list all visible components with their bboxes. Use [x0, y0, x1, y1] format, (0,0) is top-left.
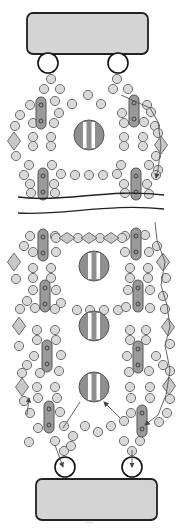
seed-bead — [108, 84, 117, 93]
two-hole-bead — [133, 341, 143, 373]
diamond-bead — [16, 378, 29, 396]
seed-bead — [120, 247, 129, 256]
seed-bead — [143, 273, 152, 282]
seed-bead — [126, 408, 135, 417]
top-clasp-bar — [27, 13, 148, 54]
diamond-bead — [8, 132, 21, 150]
seed-bead — [93, 427, 102, 436]
bead-hole — [134, 234, 138, 238]
seed-bead — [29, 351, 38, 360]
seed-bead — [32, 325, 41, 334]
seed-bead — [106, 421, 115, 430]
seed-bead — [151, 170, 160, 179]
seed-bead — [83, 90, 92, 99]
seed-bead — [28, 263, 37, 272]
seed-bead — [68, 431, 77, 440]
seed-bead — [28, 247, 37, 256]
two-hole-bead — [133, 280, 143, 312]
bead-hole — [136, 302, 140, 306]
two-hole-bead — [131, 228, 141, 260]
bead-hole — [41, 174, 45, 178]
seed-bead — [50, 304, 59, 313]
seed-bead — [46, 74, 55, 83]
seed-bead — [112, 74, 121, 83]
diamond-bead — [59, 233, 75, 244]
seed-bead — [154, 417, 163, 426]
seed-bead — [125, 382, 134, 391]
bead-hole — [134, 250, 138, 254]
seed-bead — [46, 263, 55, 272]
seed-bead — [32, 382, 41, 391]
seed-bead — [139, 117, 148, 126]
seed-bead — [15, 110, 24, 119]
bead-hole — [45, 346, 49, 350]
seed-bead — [25, 408, 34, 417]
two-hole-bead — [129, 95, 139, 127]
seed-bead — [17, 368, 26, 377]
seed-bead — [144, 160, 153, 169]
seed-bead — [15, 304, 24, 313]
focal-bead — [79, 251, 109, 281]
seed-bead — [55, 407, 64, 416]
diamond-bead — [81, 233, 97, 244]
seed-bead — [50, 436, 59, 445]
seed-bead — [28, 285, 37, 294]
two-hole-bead — [42, 340, 52, 372]
seed-bead — [11, 151, 20, 160]
seed-bead — [125, 263, 134, 272]
seed-bead — [51, 335, 60, 344]
seed-bead — [54, 108, 63, 117]
seed-bead — [24, 437, 33, 446]
focal-bead — [79, 372, 109, 402]
seed-bead — [30, 303, 39, 312]
seed-bead — [28, 132, 37, 141]
break-line — [18, 207, 164, 213]
bead-hole — [136, 286, 140, 290]
seed-bead — [56, 169, 65, 178]
seed-bead — [66, 441, 75, 450]
seed-bead — [50, 382, 59, 391]
seed-bead — [122, 351, 131, 360]
jump-ring — [38, 53, 58, 73]
seed-bead — [22, 360, 31, 369]
seed-bead — [119, 118, 128, 127]
seed-bead — [151, 351, 160, 360]
bead-hole — [39, 103, 43, 107]
seed-bead — [145, 393, 154, 402]
seed-bead — [142, 179, 151, 188]
bead-hole — [132, 117, 136, 121]
seed-bead — [165, 394, 174, 403]
seed-bead — [116, 160, 125, 169]
seed-bead — [126, 393, 135, 402]
seed-bead — [121, 302, 130, 311]
seed-bead — [49, 118, 58, 127]
seed-bead — [119, 416, 128, 425]
bead-hole — [140, 427, 144, 431]
seed-bead — [32, 335, 41, 344]
bead-hole — [47, 407, 51, 411]
bead-hole — [47, 423, 51, 427]
diamond-bead — [13, 317, 26, 335]
seed-bead — [50, 325, 59, 334]
bead-hole — [136, 347, 140, 351]
bead-hole — [136, 363, 140, 367]
focal-bead — [79, 311, 109, 341]
seed-bead — [14, 341, 23, 350]
seed-bead — [54, 366, 63, 375]
beading-diagram: — — [0, 0, 184, 531]
seed-bead — [19, 170, 28, 179]
seed-bead — [50, 96, 59, 105]
seed-bead — [10, 121, 19, 130]
seed-bead — [56, 350, 65, 359]
seed-bead — [72, 305, 81, 314]
bead-hole — [134, 174, 138, 178]
seed-bead — [125, 273, 134, 282]
seed-bead — [51, 247, 60, 256]
two-hole-bead — [44, 401, 54, 433]
bead-hole — [41, 251, 45, 255]
seed-bead — [47, 160, 56, 169]
seed-bead — [135, 436, 144, 445]
seed-bead — [25, 100, 34, 109]
bead-hole — [43, 302, 47, 306]
seed-bead — [119, 141, 128, 150]
